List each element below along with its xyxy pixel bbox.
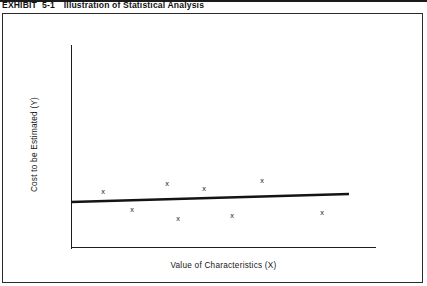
- data-point: x: [163, 179, 172, 188]
- data-point: x: [128, 205, 137, 214]
- x-axis-label: Value of Characteristics (X): [71, 261, 376, 270]
- scatter-plot: Cost to be Estimated (Y) Value of Charac…: [0, 0, 427, 286]
- data-point: x: [200, 184, 209, 193]
- data-point: x: [258, 176, 267, 185]
- y-axis-line: [71, 45, 72, 249]
- exhibit-page: EXHIBIT5-1Illustration of Statistical An…: [0, 0, 427, 286]
- x-axis-line: [71, 247, 376, 248]
- data-point: x: [174, 214, 183, 223]
- data-point: x: [99, 187, 108, 196]
- data-point: x: [318, 208, 327, 217]
- data-point: x: [228, 211, 237, 220]
- regression-line: [0, 0, 427, 286]
- y-axis-label: Cost to be Estimated (Y): [30, 75, 39, 215]
